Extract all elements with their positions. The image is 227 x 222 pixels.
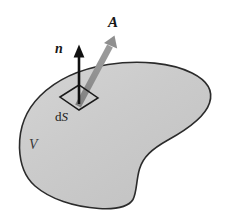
figure-canvas: A n dS V <box>0 0 227 222</box>
normal-vector-label: n <box>55 42 63 56</box>
flux-diagram-svg <box>0 0 227 222</box>
volume-label: V <box>29 138 38 152</box>
surface-element-label: dS <box>55 110 68 123</box>
surface-element-label-s: S <box>62 109 69 124</box>
normal-vector-arrowhead <box>74 45 85 58</box>
volume-region-shape <box>19 62 210 208</box>
vector-a-label: A <box>108 15 118 30</box>
